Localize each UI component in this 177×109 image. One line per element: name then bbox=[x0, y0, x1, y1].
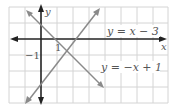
x-axis-label: x bbox=[161, 41, 167, 52]
equation-label-line-1: y = x − 3 bbox=[106, 25, 159, 38]
y-axis-up-arrow-icon bbox=[38, 4, 44, 12]
coordinate-graph: y x 1 −1 y = x − 3 y = −x + 1 bbox=[0, 0, 177, 109]
line-y-eq-neg-x-plus-1 bbox=[26, 10, 104, 88]
equation-label-line-2: y = −x + 1 bbox=[100, 61, 162, 74]
x-axis-left-arrow-icon bbox=[10, 36, 18, 42]
tick-label-y-neg-1: −1 bbox=[25, 50, 40, 61]
tick-label-x-1: 1 bbox=[55, 42, 61, 53]
y-axis-label: y bbox=[44, 6, 51, 17]
y-axis-down-arrow-icon bbox=[38, 97, 44, 105]
